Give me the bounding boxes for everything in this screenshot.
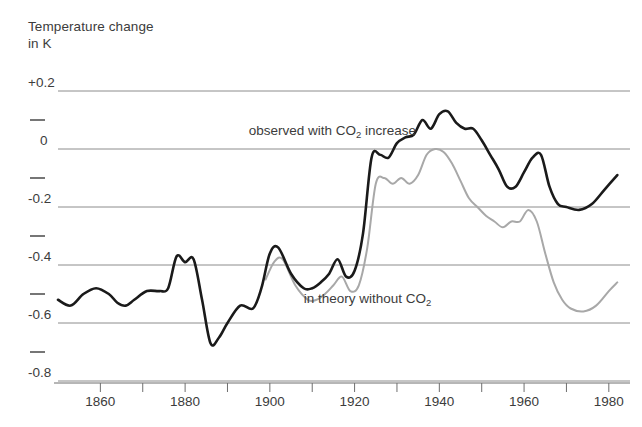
x-axis-label-1880: 1880 bbox=[155, 394, 215, 409]
x-axis-label-1940: 1940 bbox=[409, 394, 469, 409]
data-series-group bbox=[58, 111, 617, 346]
x-axis-label-1980: 1980 bbox=[579, 394, 639, 409]
y-axis-label-+0.2: +0.2 bbox=[28, 75, 55, 90]
observed-series-label: observed with CO2 increase bbox=[249, 123, 416, 138]
theory-series-label: in theory without CO2 bbox=[304, 291, 432, 306]
y-axis-label--0.6: -0.6 bbox=[28, 307, 51, 322]
y-axis-label-0: 0 bbox=[40, 133, 48, 148]
x-axis-group bbox=[54, 383, 630, 392]
series-line-theory bbox=[266, 149, 618, 312]
chart-plot-area bbox=[0, 0, 642, 427]
y-axis-label--0.8: -0.8 bbox=[28, 365, 51, 380]
x-axis-label-1920: 1920 bbox=[325, 394, 385, 409]
y-axis-label--0.2: -0.2 bbox=[28, 191, 51, 206]
y-axis-label--0.4: -0.4 bbox=[28, 249, 51, 264]
temperature-change-chart: Temperature change in K +0.20-0.2-0.4-0.… bbox=[0, 0, 642, 427]
series-line-observed bbox=[58, 111, 617, 346]
x-axis-label-1860: 1860 bbox=[70, 394, 130, 409]
x-axis-label-1960: 1960 bbox=[494, 394, 554, 409]
x-axis-label-1900: 1900 bbox=[240, 394, 300, 409]
